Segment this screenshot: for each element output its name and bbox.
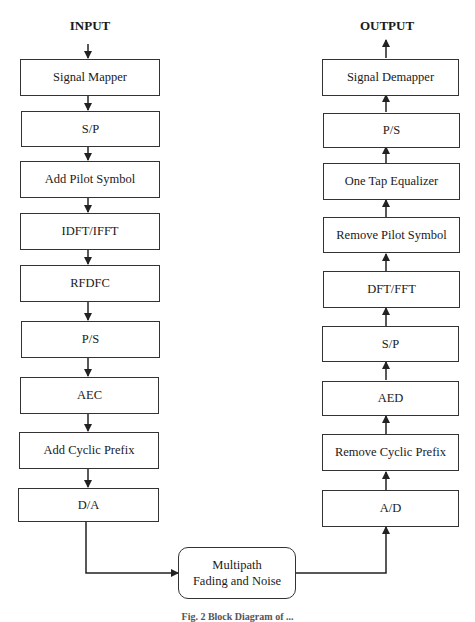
- tx-rfdfc-block: RFDFC: [20, 265, 160, 302]
- rx-remove-pilot-block: Remove Pilot Symbol: [323, 217, 460, 253]
- tx-da-block: D/A: [18, 488, 159, 522]
- rx-one-tap-equalizer-block: One Tap Equalizer: [323, 163, 460, 200]
- rx-aed-block: AED: [322, 381, 459, 416]
- channel-line-2: Fading and Noise: [193, 573, 281, 589]
- tx-add-pilot-block: Add Pilot Symbol: [20, 161, 160, 198]
- tx-signal-mapper-block: Signal Mapper: [20, 59, 160, 96]
- rx-ad-block: A/D: [322, 490, 459, 527]
- rx-signal-demapper-block: Signal Demapper: [322, 59, 459, 96]
- channel-line-1: Multipath: [212, 557, 261, 573]
- tx-ps-block: P/S: [21, 321, 160, 358]
- rx-dft-fft-block: DFT/FFT: [323, 271, 460, 308]
- rx-remove-cyclic-prefix-block: Remove Cyclic Prefix: [322, 434, 459, 471]
- rx-ps-block: P/S: [323, 113, 460, 148]
- tx-idft-ifft-block: IDFT/IFFT: [20, 213, 160, 250]
- tx-sp-block: S/P: [21, 111, 160, 147]
- channel-block: Multipath Fading and Noise: [178, 547, 296, 599]
- tx-add-cyclic-prefix-block: Add Cyclic Prefix: [19, 432, 159, 469]
- tx-aec-block: AEC: [20, 377, 159, 414]
- rx-sp-block: S/P: [322, 326, 459, 362]
- figure-caption: Fig. 2 Block Diagram of ...: [0, 611, 475, 622]
